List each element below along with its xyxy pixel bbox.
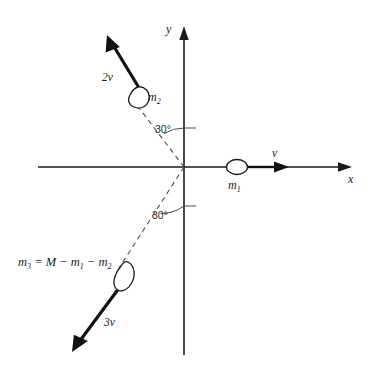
y-axis: y <box>165 22 189 355</box>
mass-equation-m3: m3 = M − m1 − m2 <box>18 255 112 271</box>
physics-vector-diagram: x y 30° 30° v m1 <box>0 0 375 383</box>
vector-group-m1: v m1 <box>227 147 290 194</box>
angle-upper: 30° <box>155 123 196 135</box>
v3-magnitude-label: 3v <box>103 316 116 328</box>
diagram-canvas: x y 30° 30° v m1 <box>0 0 375 383</box>
mass-body-m3 <box>114 262 134 291</box>
vector-group-m2: 2v m2 <box>102 35 161 108</box>
mass-body-m2 <box>129 87 150 108</box>
y-axis-arrowhead <box>179 26 188 40</box>
mass-label-m2: m2 <box>148 90 161 106</box>
v1-arrowhead <box>274 162 289 173</box>
angle-upper-label: 30° <box>155 123 171 135</box>
vector-group-m3: 3v <box>72 262 134 352</box>
v1-magnitude-label: v <box>272 147 278 159</box>
y-axis-label: y <box>165 22 172 36</box>
x-axis-arrowhead <box>338 162 352 171</box>
v3-arrowhead <box>72 335 88 352</box>
v2-magnitude-label: 2v <box>102 71 114 83</box>
mass-label-m1: m1 <box>228 178 241 194</box>
angle-lower: 30° <box>152 206 196 221</box>
angle-lower-label: 30° <box>152 209 168 221</box>
mass-body-m1 <box>227 160 248 175</box>
x-axis-label: x <box>347 172 354 186</box>
x-axis: x <box>38 162 354 186</box>
